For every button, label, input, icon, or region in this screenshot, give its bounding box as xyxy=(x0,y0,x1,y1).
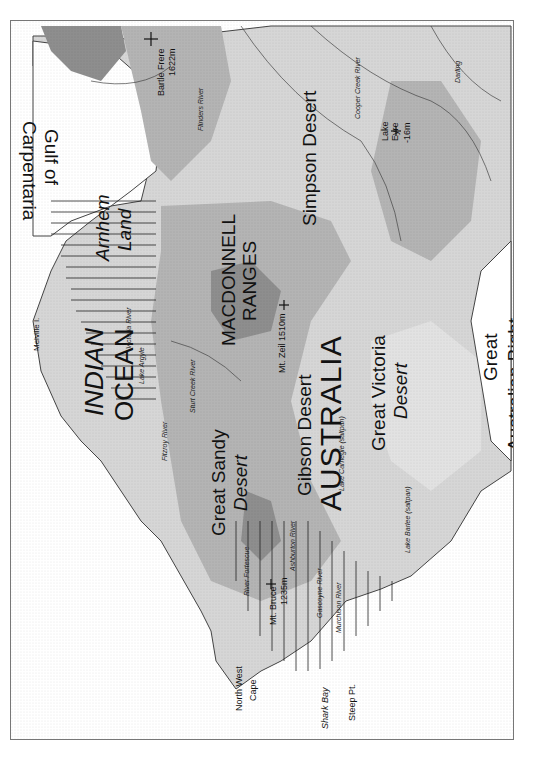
flinders-river-label: Flinders River xyxy=(197,88,204,131)
lake-barlee-label: Lake Barlee (saltpan) xyxy=(404,486,411,553)
cooper-creek-label: Cooper Creek River xyxy=(354,57,361,119)
murchison-river-label: Murchison River xyxy=(335,582,342,633)
steep-point-label: Steep Pt. xyxy=(348,684,357,721)
indian-ocean-label-1: INDIAN xyxy=(81,328,107,416)
bartle-frere-label-2: 1622m xyxy=(168,48,177,76)
fortescue-river-label: River Fortescue xyxy=(243,547,250,596)
gulf-label-2: Carpentaria xyxy=(20,121,39,220)
sturt-creek-label: Sturt Creek River xyxy=(189,359,196,413)
darling-river-label: Darling xyxy=(454,61,461,83)
macdonnell-label-1: MACDONNELL xyxy=(219,214,238,346)
lake-carnegie-label: Lake Carnegie (saltpan) xyxy=(338,416,345,491)
shark-bay-label: Shark Bay xyxy=(321,687,330,729)
great-victoria-label-2: Desert xyxy=(391,363,410,419)
nw-cape-label-1: North West xyxy=(235,666,244,711)
indian-ocean-label-2: OCEAN xyxy=(111,329,137,421)
ashburton-river-label: Ashburton River xyxy=(289,521,296,571)
arnhem-label-2: Land xyxy=(115,209,134,251)
great-victoria-label-1: Great Victoria xyxy=(369,335,388,451)
lake-eyre-label-2: Eyre xyxy=(391,122,400,141)
lake-argyle-label: Lake Argyle xyxy=(138,347,145,384)
simpson-desert-label: Simpson Desert xyxy=(300,91,319,226)
gulf-label-1: Gulf of xyxy=(42,129,61,185)
fitzroy-river-label: Fitzroy River xyxy=(161,422,168,461)
gascoyne-river-label: Gascoyne River xyxy=(316,568,323,618)
mt-bruce-label-2: 1235m xyxy=(280,577,289,605)
great-sandy-label-2: Desert xyxy=(231,455,250,511)
arnhem-label-1: Arnhem xyxy=(93,194,112,261)
great-sandy-label-1: Great Sandy xyxy=(209,429,228,536)
bight-label-2: Australian Bight xyxy=(505,318,514,451)
melville-island-label: Melville I. xyxy=(33,318,41,351)
gibson-desert-label: Gibson Desert xyxy=(295,375,314,496)
nw-cape-label-2: Cape xyxy=(249,679,258,701)
macdonnell-label-2: RANGES xyxy=(240,241,259,321)
map-frame: INDIAN OCEAN Gulf of Carpentaria Great A… xyxy=(10,20,514,740)
mt-zeil-label: Mt. Zeil 1510m xyxy=(278,313,287,373)
bight-label-1: Great xyxy=(481,333,500,381)
victoria-river-label: Victoria River xyxy=(125,308,132,350)
lake-eyre-label-3: -16m xyxy=(403,122,412,143)
mt-bruce-label-1: Mt. Bruce xyxy=(269,586,278,625)
lake-eyre-label-1: Lake xyxy=(381,121,390,141)
bartle-frere-label-1: Bartle Frere xyxy=(157,48,166,96)
